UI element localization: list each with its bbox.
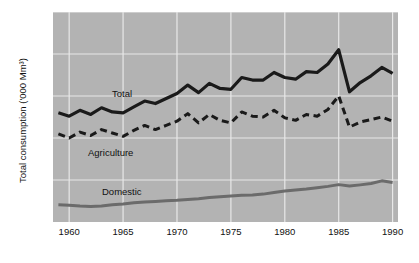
series-label-total: Total (112, 88, 132, 99)
y-axis-title: Total consumption ('000 Mm³) (17, 41, 28, 201)
x-tick-label: 1990 (371, 226, 415, 237)
x-tick-label: 1980 (263, 226, 307, 237)
series-label-agriculture: Agriculture (88, 147, 133, 158)
x-tick-label: 1985 (317, 226, 361, 237)
x-tick-label: 1975 (209, 226, 253, 237)
chart-container: Total consumption ('000 Mm³) 0.51.01.52.… (0, 0, 419, 263)
x-tick-label: 1965 (101, 226, 145, 237)
x-tick-label: 1970 (155, 226, 199, 237)
x-tick-label: 1960 (47, 226, 91, 237)
series-label-domestic: Domestic (102, 186, 142, 197)
